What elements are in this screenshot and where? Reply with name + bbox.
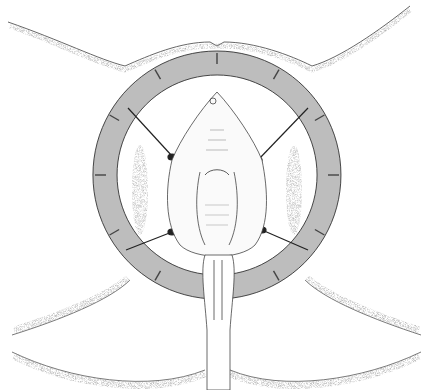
stay-upper-left: [128, 108, 172, 156]
lower-channel: [203, 255, 234, 390]
stay-upper-right: [258, 108, 308, 160]
operative-field: [167, 92, 266, 256]
surgical-illustration: [0, 0, 433, 390]
